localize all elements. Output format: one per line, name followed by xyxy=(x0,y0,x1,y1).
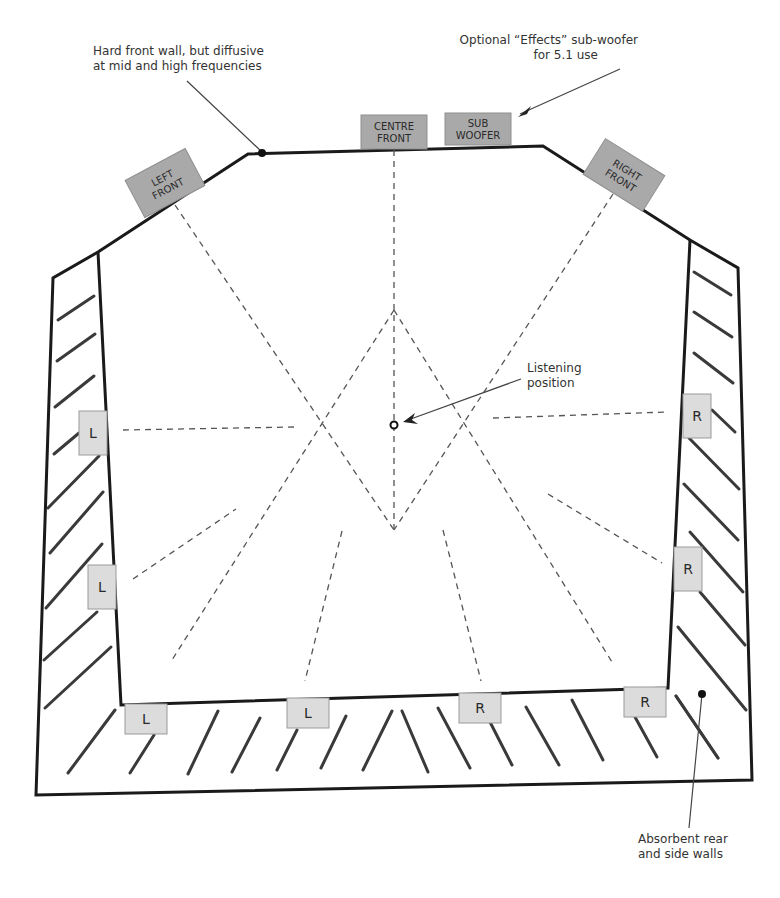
speaker-right-side-2-label: R xyxy=(683,561,693,577)
speaker-right-side-1-label: R xyxy=(692,408,702,424)
subwoofer-annotation: Optional “Effects” sub-wooferfor 5.1 use xyxy=(460,33,638,62)
speaker-centre-front: CENTREFRONT xyxy=(361,115,427,149)
speaker-left-side-2: L xyxy=(88,565,116,609)
speaker-right-front: RIGHTFRONT xyxy=(583,139,665,212)
listening-arrowhead-icon xyxy=(403,413,418,424)
surround-speakers: LLLLRRRR xyxy=(79,394,711,734)
absorbent-walls-annotation: Absorbent rearand side walls xyxy=(638,832,728,861)
front-wall-annotation: Hard front wall, but diffusiveat mid and… xyxy=(93,44,264,73)
speaker-sub-woofer: SUBWOOFER xyxy=(445,113,511,145)
speaker-left-side-2-label: L xyxy=(98,579,106,595)
subwoofer-leader xyxy=(520,69,620,114)
speaker-right-rear-1: R xyxy=(459,693,501,723)
absorbent-wall-marker-icon xyxy=(698,690,706,698)
subwoofer-arrowhead-icon xyxy=(518,106,533,117)
speaker-left-rear-1: L xyxy=(125,704,167,734)
sound-rays xyxy=(123,150,667,681)
speaker-right-rear-2: R xyxy=(624,687,666,717)
speaker-right-rear-2-label: R xyxy=(640,694,650,710)
front-wall-marker-icon xyxy=(258,149,266,157)
speaker-centre-front-label: CENTREFRONT xyxy=(374,121,414,144)
speaker-left-rear-2-label: L xyxy=(304,705,312,721)
right-wall-hatching xyxy=(676,272,746,758)
speaker-left-side-1-label: L xyxy=(89,425,97,441)
absorbent-leader xyxy=(689,694,702,828)
speaker-left-rear-1-label: L xyxy=(142,711,150,727)
front-speakers: LEFTFRONTCENTREFRONTSUBWOOFERRIGHTFRONT xyxy=(125,113,665,218)
speaker-left-front: LEFTFRONT xyxy=(125,148,205,217)
listening-position-annotation: Listeningposition xyxy=(527,361,582,390)
speaker-right-rear-1-label: R xyxy=(475,700,485,716)
room-diagram: LEFTFRONTCENTREFRONTSUBWOOFERRIGHTFRONT … xyxy=(0,0,780,898)
listening-position-icon xyxy=(391,422,398,429)
listening-leader xyxy=(408,379,521,420)
speaker-right-side-2: R xyxy=(674,547,702,591)
speaker-right-side-1: R xyxy=(683,394,711,438)
speaker-left-side-1: L xyxy=(79,411,107,455)
front-wall-leader xyxy=(187,81,262,152)
speaker-left-rear-2: L xyxy=(287,698,329,728)
